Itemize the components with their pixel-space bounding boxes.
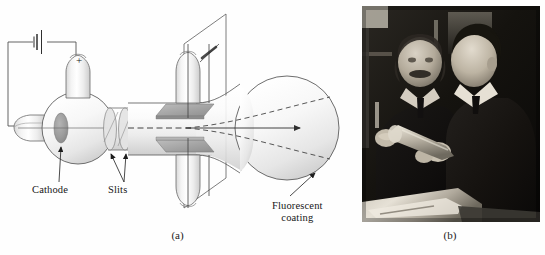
caption-b: (b) [355,229,545,241]
label-fluorescent-coating: Fluorescent coating [272,200,323,224]
laboratory-photograph [362,6,540,222]
label-fluorescent-line1: Fluorescent [272,200,323,212]
battery-symbol [34,30,42,54]
label-slits: Slits [108,184,127,195]
label-cathode: Cathode [32,184,68,195]
photo-bright-spots [375,102,379,128]
label-anode-polarity: + [76,54,82,66]
label-fluorescent-line2: coating [272,212,323,224]
panel-b-photograph [362,6,540,222]
slits-assembly [104,108,132,150]
switch-symbol [200,44,219,62]
figure-root: Cathode Slits Fluorescent coating + [0,0,545,255]
caption-a: (a) [0,229,355,241]
panel-a-diagram: Cathode Slits Fluorescent coating + [0,0,355,255]
